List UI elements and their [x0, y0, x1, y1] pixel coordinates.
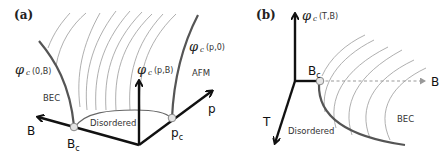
svg-text:(p,0): (p,0) — [206, 43, 225, 52]
svg-text:c: c — [148, 69, 152, 77]
svg-text:(p,B): (p,B) — [154, 66, 173, 75]
phi-label-vertical: φ c (p,B) — [137, 62, 173, 77]
axis-T-label: T — [262, 115, 271, 129]
region-disordered-b: Disordered — [288, 126, 334, 136]
panel-a: (a) B p Bc pc — [14, 8, 225, 153]
svg-text:c: c — [313, 15, 317, 23]
svg-text:c: c — [26, 69, 30, 77]
critical-point-pc — [168, 114, 176, 122]
phase-diagram-figure: (a) B p Bc pc — [0, 0, 448, 155]
svg-text:(0,B): (0,B) — [32, 67, 51, 76]
Bc-label-b: Bc — [308, 64, 321, 80]
svg-text:φ: φ — [137, 62, 147, 77]
phase-boundary-left — [39, 41, 74, 126]
axis-B-label-b: B — [431, 75, 439, 89]
svg-text:c: c — [200, 46, 204, 54]
phase-diagram-svg: (a) B p Bc pc — [0, 0, 448, 155]
region-disordered-a: Disordered — [90, 118, 136, 128]
region-AFM: AFM — [192, 68, 210, 78]
svg-text:φ: φ — [302, 8, 312, 23]
phi-label-right: φ c (p,0) — [189, 39, 225, 54]
region-BEC-a: BEC — [43, 93, 60, 103]
phase-boundary-right — [172, 15, 198, 118]
panel-b: (b) Bc B T φ c (T,B) BEC Disorde — [256, 8, 439, 145]
panel-b-label: (b) — [256, 8, 276, 22]
phi-label-b: φ c (T,B) — [302, 8, 338, 23]
panel-b-contours — [322, 35, 426, 140]
panel-a-label: (a) — [14, 8, 33, 22]
Bc-label: Bc — [67, 137, 80, 153]
phi-label-left: φ c (0,B) — [15, 62, 51, 77]
svg-text:φ: φ — [189, 39, 199, 54]
axis-p-label: p — [208, 102, 216, 116]
axis-B-label: B — [27, 124, 35, 138]
critical-point-Bc — [70, 123, 78, 131]
svg-text:φ: φ — [15, 62, 25, 77]
svg-text:(T,B): (T,B) — [319, 12, 338, 21]
region-BEC-b: BEC — [397, 114, 414, 124]
pc-label: pc — [171, 126, 183, 142]
